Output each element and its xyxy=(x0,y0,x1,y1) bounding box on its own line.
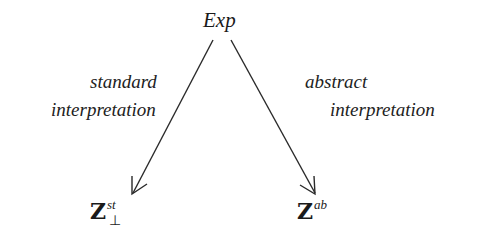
standard-target-superscript: st xyxy=(107,197,116,212)
abstract-interpretation-arrow xyxy=(231,40,315,193)
abstract-target-superscript: ab xyxy=(314,197,327,212)
source-node-exp: Exp xyxy=(203,8,236,33)
abstract-target-node: Zab xyxy=(297,198,327,224)
bottom-symbol-icon: ⊥ xyxy=(109,212,121,228)
standard-target-base: Z xyxy=(90,198,106,224)
abstract-edge-label-line2: interpretation xyxy=(330,98,435,122)
abstract-edge-label-line1: abstract xyxy=(305,70,367,94)
standard-edge-label-line1: standard xyxy=(90,70,157,94)
abstract-target-base: Z xyxy=(297,198,313,224)
standard-target-node: Zst ⊥ xyxy=(90,198,116,224)
standard-edge-label-line2: interpretation xyxy=(51,98,156,122)
